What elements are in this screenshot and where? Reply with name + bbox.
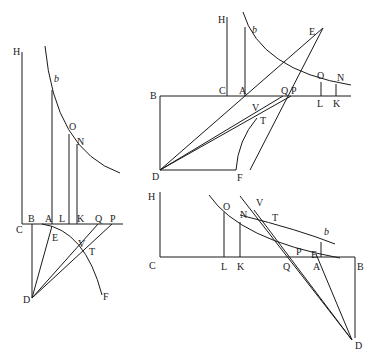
figure-top-right: H b E O N B C A Q P L K V T D F — [150, 12, 351, 183]
label-T: T — [89, 246, 95, 257]
label-P: P — [291, 85, 297, 96]
label-L: L — [317, 98, 323, 109]
label-T: T — [272, 212, 278, 223]
geometry-diagram: H b O N C B A L K Q P E V T D F H b E O … — [0, 0, 379, 361]
label-B: B — [150, 90, 157, 101]
label-V: V — [78, 238, 86, 249]
label-P: P — [110, 213, 116, 224]
label-C: C — [149, 260, 156, 271]
label-K: K — [77, 213, 85, 224]
label-E: E — [311, 249, 317, 260]
label-O: O — [317, 70, 324, 81]
label-K: K — [333, 98, 341, 109]
label-B: B — [357, 261, 364, 272]
figure-bottom-right: H O N V T b P E C L K Q A B D — [148, 191, 364, 351]
label-D: D — [355, 340, 362, 351]
label-b: b — [324, 226, 329, 237]
label-L: L — [221, 261, 227, 272]
label-A: A — [239, 85, 247, 96]
label-E: E — [309, 26, 315, 37]
label-D: D — [152, 171, 159, 182]
label-C: C — [219, 85, 226, 96]
label-F: F — [103, 291, 109, 302]
label-A: A — [45, 213, 53, 224]
label-b: b — [54, 73, 59, 84]
figure-left: H b O N C B A L K Q P E V T D F — [13, 46, 123, 305]
label-K: K — [237, 261, 245, 272]
label-P: P — [296, 246, 302, 257]
label-N: N — [240, 209, 247, 220]
label-D: D — [23, 294, 30, 305]
label-Q: Q — [95, 213, 103, 224]
label-V: V — [256, 197, 264, 208]
label-H: H — [218, 14, 225, 25]
label-b: b — [252, 24, 257, 35]
label-O: O — [69, 121, 76, 132]
label-F: F — [237, 172, 243, 183]
label-C: C — [16, 224, 23, 235]
label-T: T — [260, 115, 266, 126]
label-H: H — [148, 191, 155, 202]
label-Q: Q — [281, 85, 289, 96]
label-Q: Q — [283, 261, 291, 272]
label-O: O — [223, 201, 230, 212]
label-V: V — [252, 102, 260, 113]
label-N: N — [77, 136, 84, 147]
label-B: B — [28, 213, 35, 224]
label-H: H — [13, 46, 20, 57]
label-A: A — [313, 261, 321, 272]
label-L: L — [59, 213, 65, 224]
label-N: N — [337, 72, 344, 83]
label-E: E — [52, 232, 58, 243]
